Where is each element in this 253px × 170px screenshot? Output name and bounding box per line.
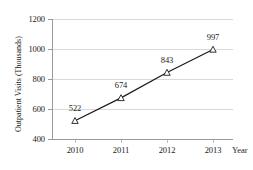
data-label-2011: 674 <box>101 81 141 90</box>
data-label-2013: 997 <box>193 33 233 42</box>
data-point-marker <box>210 46 216 52</box>
data-label-2010: 522 <box>55 104 95 113</box>
data-point-marker <box>72 118 78 124</box>
series-line <box>75 49 213 120</box>
data-label-2012: 843 <box>147 56 187 65</box>
data-point-marker <box>118 95 124 101</box>
data-point-marker <box>164 69 170 75</box>
line-chart: 1200 1000 800 600 400 2010 2011 2012 201… <box>0 0 253 170</box>
